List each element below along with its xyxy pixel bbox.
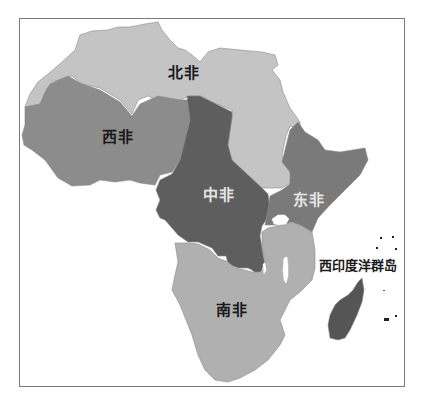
label-east-africa: 东非 xyxy=(293,193,325,208)
island-dot xyxy=(380,237,382,239)
label-western-indian-ocean-islands: 西印度洋群岛 xyxy=(319,259,397,272)
island-dot xyxy=(384,318,389,321)
island-dot xyxy=(392,236,394,238)
label-north-africa: 北非 xyxy=(168,66,200,81)
lake-malawi xyxy=(283,257,288,283)
island-dot xyxy=(395,248,397,250)
island-dot xyxy=(376,247,378,249)
label-southern-africa: 南非 xyxy=(216,303,248,318)
label-west-africa: 西非 xyxy=(102,130,134,145)
island-dot xyxy=(395,315,397,317)
label-central-africa: 中非 xyxy=(203,188,235,203)
island-dot xyxy=(383,290,385,291)
madagascar[interactable] xyxy=(328,278,364,340)
